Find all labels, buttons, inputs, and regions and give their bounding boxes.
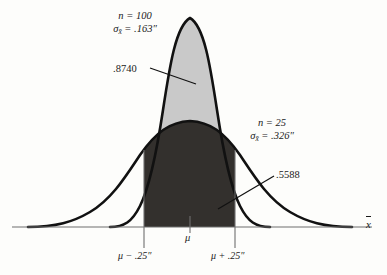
axis-label-mu-plus: μ + .25″	[211, 250, 244, 263]
annotation-n100-line2: σx̄ = .163″	[99, 22, 171, 37]
equals-sigma-25: =	[261, 130, 268, 141]
n-symbol-25: n	[258, 117, 263, 128]
xbar-glyph: x	[366, 217, 371, 231]
area-label-5588: .5588	[276, 168, 300, 181]
equals-sigma-100: =	[124, 23, 131, 34]
sigma-subscript-25: x̄	[255, 135, 258, 144]
sigma-subscript-100: x̄	[118, 28, 121, 37]
axis-label-mu-minus: μ − .25″	[118, 250, 151, 263]
n-value-100: 100	[136, 10, 152, 21]
sampling-distribution-figure: n = 100 σx̄ = .163″ n = 25 σx̄ = .326″ .…	[0, 0, 387, 275]
annotation-n25: n = 25 σx̄ = .326″	[236, 116, 308, 144]
annotation-n25-line2: σx̄ = .326″	[236, 129, 308, 144]
area-label-8740: .8740	[113, 62, 137, 75]
axis-label-mu: μ	[185, 231, 190, 244]
n-value-25: 25	[276, 117, 287, 128]
annotation-n25-line1: n = 25	[236, 116, 308, 129]
equals-100: =	[126, 10, 133, 21]
axis-label-xbar: x	[366, 217, 371, 231]
distribution-chart	[0, 0, 387, 275]
equals-25: =	[266, 117, 273, 128]
n-symbol-100: n	[118, 10, 123, 21]
annotation-n100-line1: n = 100	[99, 9, 171, 22]
sigma-value-25: .326″	[271, 130, 294, 141]
annotation-n100: n = 100 σx̄ = .163″	[99, 9, 171, 37]
sigma-value-100: .163″	[134, 23, 157, 34]
